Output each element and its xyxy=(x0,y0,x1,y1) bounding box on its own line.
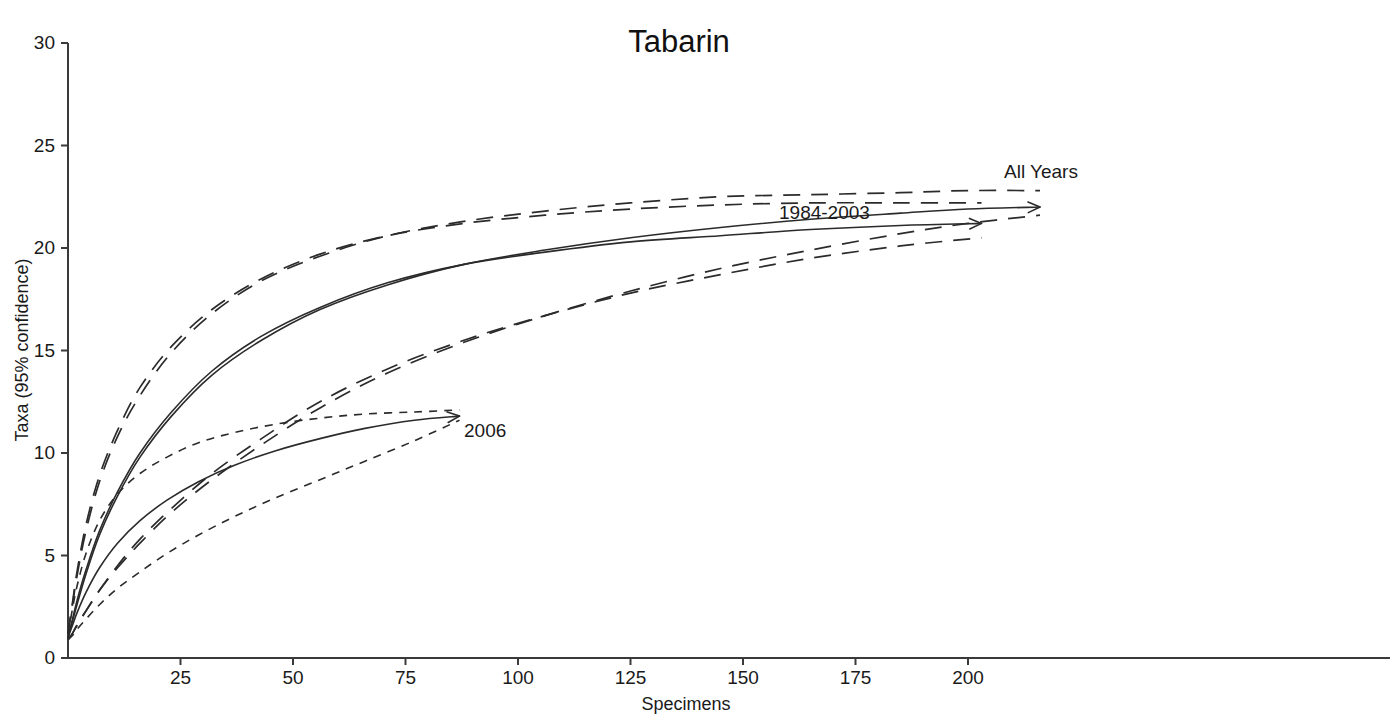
series-curve xyxy=(68,223,982,637)
series-curves xyxy=(68,190,1040,639)
y-tick-label: 30 xyxy=(34,32,55,53)
x-tick-label: 75 xyxy=(395,667,416,688)
y-tick-label: 25 xyxy=(34,135,55,156)
rarefaction-chart: 051015202530 255075100125150175200 Tabar… xyxy=(0,0,1393,728)
x-tick-label: 50 xyxy=(282,667,303,688)
y-tick-label: 10 xyxy=(34,442,55,463)
y-tick-label: 0 xyxy=(44,647,55,668)
series-curve xyxy=(68,203,982,634)
x-tick-label: 100 xyxy=(502,667,534,688)
x-tick-label: 125 xyxy=(615,667,647,688)
series-curve xyxy=(68,238,982,640)
series-label: All Years xyxy=(1004,161,1078,182)
x-tick-label: 175 xyxy=(840,667,872,688)
series-curve xyxy=(68,215,1040,639)
axes-group: 051015202530 255075100125150175200 xyxy=(34,32,1390,688)
x-axis-ticks: 255075100125150175200 xyxy=(170,658,984,688)
series-label: 1984-2003 xyxy=(779,202,870,223)
x-tick-label: 25 xyxy=(170,667,191,688)
y-axis-ticks: 051015202530 xyxy=(34,32,68,668)
y-tick-label: 20 xyxy=(34,237,55,258)
y-tick-label: 5 xyxy=(44,545,55,566)
series-curve xyxy=(68,190,1040,633)
x-tick-label: 200 xyxy=(952,667,984,688)
series-label: 2006 xyxy=(464,420,506,441)
series-curve xyxy=(68,416,460,637)
x-tick-label: 150 xyxy=(727,667,759,688)
y-tick-label: 15 xyxy=(34,340,55,361)
chart-canvas: 051015202530 255075100125150175200 Tabar… xyxy=(0,0,1393,728)
x-axis-title: Specimens xyxy=(641,694,730,714)
y-axis-title: Taxa (95% confidence) xyxy=(12,258,32,441)
series-curve xyxy=(68,420,460,639)
page-title: Tabarin xyxy=(628,24,730,59)
series-curve xyxy=(68,207,1040,638)
series-annotations: All Years1984-20032006 xyxy=(464,161,1078,440)
